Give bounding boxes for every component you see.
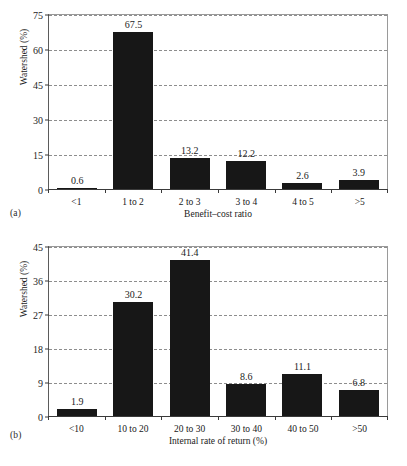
bar-slot: 13.2 — [162, 15, 218, 189]
y-axis-tick-label: 45 — [33, 242, 43, 253]
bar: 41.4 — [170, 260, 210, 416]
bar: 8.6 — [226, 384, 266, 416]
y-axis-tick-label: 60 — [33, 45, 43, 56]
y-axis-tick-label: 27 — [33, 310, 43, 321]
y-axis-tick-label: 9 — [38, 378, 43, 389]
bar-slot: 6.8 — [331, 247, 387, 416]
bar-value-label: 30.2 — [125, 289, 143, 300]
bar-value-label: 3.9 — [353, 167, 366, 178]
bar: 1.9 — [57, 409, 97, 416]
x-axis-tick-label: 30 to 40 — [218, 416, 275, 434]
x-axis-end-tick-a — [387, 189, 388, 193]
bar: 67.5 — [113, 32, 153, 190]
bar-slot: 67.5 — [105, 15, 161, 189]
bar-value-label: 12.2 — [237, 148, 255, 159]
bar-series-b: 1.930.241.48.611.16.8 — [49, 247, 387, 416]
bar-value-label: 41.4 — [181, 247, 199, 258]
y-axis-tick-label: 30 — [33, 115, 43, 126]
y-axis-tick-label: 36 — [33, 276, 43, 287]
bar: 6.8 — [339, 390, 379, 416]
plot-area-b: 0918273645 1.930.241.48.611.16.8 — [48, 246, 388, 416]
x-axis-tick-label: >50 — [331, 416, 388, 434]
bar: 11.1 — [282, 374, 322, 416]
figure-container: (a) Watershed (%) 01530456075 0.667.513.… — [0, 0, 407, 466]
bar-slot: 3.9 — [331, 15, 387, 189]
bar-series-a: 0.667.513.212.22.63.9 — [49, 15, 387, 189]
x-axis-tick-labels-b: <1010 to 2020 to 3030 to 4040 to 50>50 — [48, 416, 388, 434]
x-axis-tick-labels-a: <11 to 22 to 33 to 44 to 5>5 — [48, 189, 388, 207]
bar-slot: 8.6 — [218, 247, 274, 416]
bar-value-label: 13.2 — [181, 145, 199, 156]
chart-panel-a: (a) Watershed (%) 01530456075 0.667.513.… — [0, 0, 407, 236]
y-axis-title-b: Watershed (%) — [19, 229, 29, 349]
bar-slot: 1.9 — [49, 247, 105, 416]
bar: 12.2 — [226, 161, 266, 189]
bar-slot: 0.6 — [49, 15, 105, 189]
bar-slot: 12.2 — [218, 15, 274, 189]
y-axis-tick-label: 0 — [38, 412, 43, 423]
bar: 3.9 — [339, 180, 379, 189]
x-axis-tick-label: 3 to 4 — [218, 189, 275, 207]
x-axis-tick-label: 10 to 20 — [105, 416, 162, 434]
bar-value-label: 11.1 — [294, 361, 311, 372]
x-axis-tick-label: 40 to 50 — [275, 416, 332, 434]
bar-slot: 2.6 — [274, 15, 330, 189]
y-axis-tick-label: 75 — [33, 10, 43, 21]
x-axis-tick-label: <10 — [48, 416, 105, 434]
chart-panel-b: (b) Watershed (%) 0918273645 1.930.241.4… — [0, 232, 407, 466]
bar: 30.2 — [113, 302, 153, 416]
x-axis-tick-label: >5 — [331, 189, 388, 207]
bar-value-label: 2.6 — [296, 170, 309, 181]
x-axis-tick-label: <1 — [48, 189, 105, 207]
y-axis-tick-label: 18 — [33, 344, 43, 355]
bar: 13.2 — [170, 158, 210, 189]
x-axis-tick-label: 4 to 5 — [275, 189, 332, 207]
bar-value-label: 0.6 — [71, 175, 84, 186]
x-axis-title-a: Benefit–cost ratio — [48, 209, 388, 219]
bar-slot: 41.4 — [162, 247, 218, 416]
y-axis-title-a: Watershed (%) — [19, 0, 29, 117]
bar-slot: 11.1 — [274, 247, 330, 416]
bar-value-label: 8.6 — [240, 371, 253, 382]
x-axis-tick-label: 1 to 2 — [105, 189, 162, 207]
bar-value-label: 1.9 — [71, 396, 84, 407]
x-axis-tick-label: 20 to 30 — [161, 416, 218, 434]
y-axis-tick-label: 0 — [38, 185, 43, 196]
plot-area-a: 01530456075 0.667.513.212.22.63.9 — [48, 14, 388, 189]
panel-label-a: (a) — [10, 208, 21, 218]
x-axis-title-b: Internal rate of return (%) — [48, 436, 388, 446]
panel-label-b: (b) — [10, 430, 22, 440]
x-axis-tick-label: 2 to 3 — [161, 189, 218, 207]
bar-slot: 30.2 — [105, 247, 161, 416]
bar-value-label: 6.8 — [353, 377, 366, 388]
y-axis-tick-label: 15 — [33, 150, 43, 161]
x-axis-end-tick-b — [387, 416, 388, 420]
y-axis-tick-label: 45 — [33, 80, 43, 91]
bar-value-label: 67.5 — [125, 19, 143, 30]
